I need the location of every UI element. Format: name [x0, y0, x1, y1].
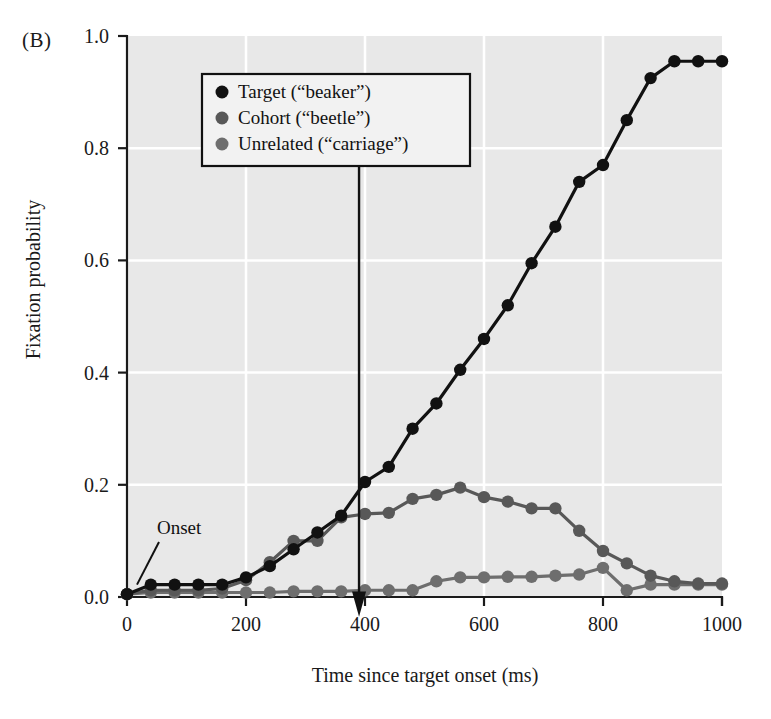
data-point	[692, 55, 704, 67]
legend-marker-1	[216, 112, 229, 125]
data-point	[549, 569, 561, 581]
y-tick-label: 0.0	[84, 586, 109, 608]
data-point	[359, 508, 371, 520]
data-point	[597, 562, 609, 574]
data-point	[383, 507, 395, 519]
x-tick-labels: 02004006008001000	[122, 613, 742, 635]
data-point	[192, 578, 204, 590]
data-point	[478, 491, 490, 503]
data-point	[145, 578, 157, 590]
data-point	[502, 495, 514, 507]
data-point	[264, 586, 276, 598]
data-point	[406, 493, 418, 505]
data-point	[311, 585, 323, 597]
data-point	[644, 72, 656, 84]
x-tick-label: 400	[350, 613, 380, 635]
data-point	[240, 571, 252, 583]
data-point	[311, 526, 323, 538]
data-point	[287, 585, 299, 597]
data-point	[406, 423, 418, 435]
data-point	[502, 571, 514, 583]
data-point	[383, 584, 395, 596]
y-tick-label: 1.0	[84, 25, 109, 47]
data-point	[644, 569, 656, 581]
data-point	[359, 476, 371, 488]
data-point	[573, 568, 585, 580]
x-tick-label: 1000	[702, 613, 742, 635]
legend-label-1: Cohort (“beetle”)	[238, 107, 370, 129]
legend-marker-2	[216, 138, 229, 151]
data-point	[692, 577, 704, 589]
chart-legend: Target (“beaker”)Cohort (“beetle”)Unrela…	[202, 74, 470, 166]
x-tick-label: 0	[122, 613, 132, 635]
x-tick-label: 800	[588, 613, 618, 635]
data-point	[478, 333, 490, 345]
data-point	[454, 364, 466, 376]
data-point	[525, 257, 537, 269]
data-point	[216, 578, 228, 590]
data-point	[597, 159, 609, 171]
data-point	[287, 543, 299, 555]
y-tick-label: 0.8	[84, 137, 109, 159]
data-point	[430, 575, 442, 587]
data-point	[121, 588, 133, 600]
data-point	[454, 481, 466, 493]
legend-label-2: Unrelated (“carriage”)	[238, 133, 408, 155]
y-tick-label: 0.4	[84, 362, 109, 384]
legend-marker-0	[216, 86, 229, 99]
data-point	[716, 55, 728, 67]
data-point	[383, 461, 395, 473]
data-point	[335, 509, 347, 521]
data-point	[264, 560, 276, 572]
data-point	[573, 525, 585, 537]
legend-label-0: Target (“beaker”)	[238, 81, 371, 103]
data-point	[454, 571, 466, 583]
data-point	[621, 557, 633, 569]
data-point	[168, 578, 180, 590]
data-point	[668, 55, 680, 67]
data-point	[430, 397, 442, 409]
x-tick-label: 600	[469, 613, 499, 635]
data-point	[430, 489, 442, 501]
chart-svg: 0.00.20.40.60.81.0 02004006008001000 Ave…	[0, 0, 771, 719]
y-tick-label: 0.6	[84, 249, 109, 271]
x-tick-label: 200	[231, 613, 261, 635]
y-tick-label: 0.2	[84, 474, 109, 496]
data-point	[573, 176, 585, 188]
data-point	[335, 585, 347, 597]
data-point	[597, 545, 609, 557]
data-point	[406, 584, 418, 596]
figure-panel-b: (B) Fixation probability Time since targ…	[0, 0, 771, 719]
data-point	[240, 586, 252, 598]
data-point	[478, 571, 490, 583]
data-point	[549, 221, 561, 233]
y-tick-labels: 0.00.20.40.60.81.0	[84, 25, 109, 608]
data-point	[525, 502, 537, 514]
data-point	[502, 299, 514, 311]
data-point	[716, 577, 728, 589]
data-point	[525, 571, 537, 583]
data-point	[621, 114, 633, 126]
data-point	[549, 502, 561, 514]
data-point	[668, 575, 680, 587]
data-point	[621, 584, 633, 596]
onset-label: Onset	[157, 517, 202, 538]
